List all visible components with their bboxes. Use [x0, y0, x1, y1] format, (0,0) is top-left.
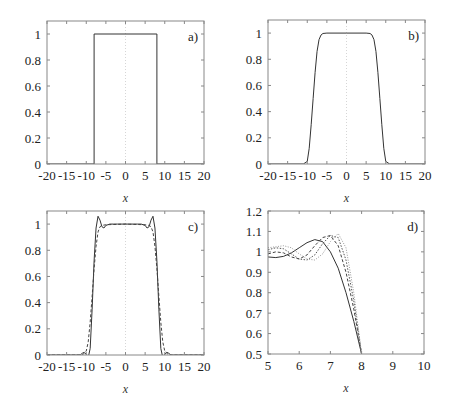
plot-frame	[268, 211, 424, 354]
y-tick-label: 0.8	[246, 285, 262, 300]
y-tick-label: 1	[35, 217, 42, 232]
y-tick-label: 0.2	[246, 130, 262, 145]
series-line-solid	[268, 240, 362, 354]
x-tick-label: -15	[279, 168, 296, 183]
x-tick-label: -5	[100, 359, 111, 374]
y-tick-label: 0.4	[246, 104, 263, 119]
x-tick-label: 15	[399, 168, 412, 183]
x-tick-label: 15	[178, 359, 191, 374]
x-axis-title: x	[343, 191, 350, 205]
y-tick-label: 0.8	[25, 243, 41, 258]
panel-c: -20-15-10-50510152000.20.40.60.81xc)	[25, 211, 211, 396]
series-line-dotted	[268, 236, 362, 354]
y-tick-label: 1	[256, 244, 263, 259]
x-tick-label: 20	[419, 168, 432, 183]
x-axis-title: x	[342, 381, 349, 395]
y-tick-label: 1	[256, 26, 263, 41]
y-tick-label: 0.6	[246, 326, 263, 341]
x-tick-label: 10	[379, 168, 392, 183]
x-tick-label: 0	[122, 168, 129, 183]
series-line-dashed	[268, 236, 362, 354]
y-tick-label: 0.6	[25, 269, 42, 284]
x-axis-title: x	[122, 191, 129, 205]
panel-b: -20-15-10-50510152000.20.40.60.81xb)	[246, 20, 432, 205]
x-tick-label: 9	[390, 358, 397, 373]
x-tick-label: 20	[198, 168, 211, 183]
series-line-light-dotted	[268, 233, 362, 354]
y-tick-label: 0.9	[246, 265, 262, 280]
x-tick-label: -5	[321, 168, 332, 183]
x-tick-label: -15	[58, 359, 75, 374]
x-tick-label: 5	[142, 359, 149, 374]
x-tick-label: 5	[265, 358, 272, 373]
y-tick-label: 0.2	[25, 321, 41, 336]
y-tick-label: 1.1	[246, 224, 262, 239]
x-tick-label: 6	[296, 358, 303, 373]
x-tick-label: -10	[78, 359, 95, 374]
x-tick-label: 15	[178, 168, 191, 183]
y-tick-label: 0.2	[25, 131, 41, 146]
x-tick-label: 10	[158, 168, 171, 183]
x-tick-label: -5	[100, 168, 111, 183]
panel-label: d)	[407, 219, 418, 234]
x-tick-label: -10	[78, 168, 95, 183]
x-tick-label: 0	[343, 168, 350, 183]
x-tick-label: -15	[58, 168, 75, 183]
x-tick-label: 5	[142, 168, 149, 183]
panel-label: b)	[408, 28, 419, 43]
y-tick-label: 0.8	[246, 52, 262, 67]
y-tick-label: 0.6	[25, 79, 42, 94]
x-tick-label: 20	[198, 359, 211, 374]
y-tick-label: 0	[256, 157, 263, 172]
panel-label: c)	[188, 219, 198, 234]
y-tick-label: 0	[35, 348, 42, 363]
x-tick-label: 10	[418, 358, 431, 373]
x-tick-label: 0	[122, 359, 129, 374]
y-tick-label: 0.8	[25, 53, 41, 68]
y-tick-label: 0.4	[25, 295, 42, 310]
y-tick-label: 1	[35, 27, 42, 42]
x-axis-title: x	[122, 382, 129, 396]
panel-a: -20-15-10-50510152000.20.40.60.81xa)	[25, 21, 211, 205]
panel-label: a)	[188, 29, 198, 44]
figure-canvas: -20-15-10-50510152000.20.40.60.81xa) -20…	[0, 0, 450, 408]
x-tick-label: 8	[358, 358, 365, 373]
y-tick-label: 0	[35, 157, 42, 172]
y-tick-label: 0.7	[246, 306, 263, 321]
x-tick-label: 10	[158, 359, 171, 374]
x-tick-label: 5	[363, 168, 370, 183]
panel-d: 56789100.50.60.70.80.911.11.2xd)	[246, 204, 431, 396]
y-tick-label: 0.4	[25, 105, 42, 120]
y-tick-label: 1.2	[246, 204, 262, 219]
x-tick-label: 7	[327, 358, 334, 373]
x-tick-label: -10	[299, 168, 316, 183]
y-tick-label: 0.6	[246, 78, 263, 93]
y-tick-label: 0.5	[246, 347, 262, 362]
